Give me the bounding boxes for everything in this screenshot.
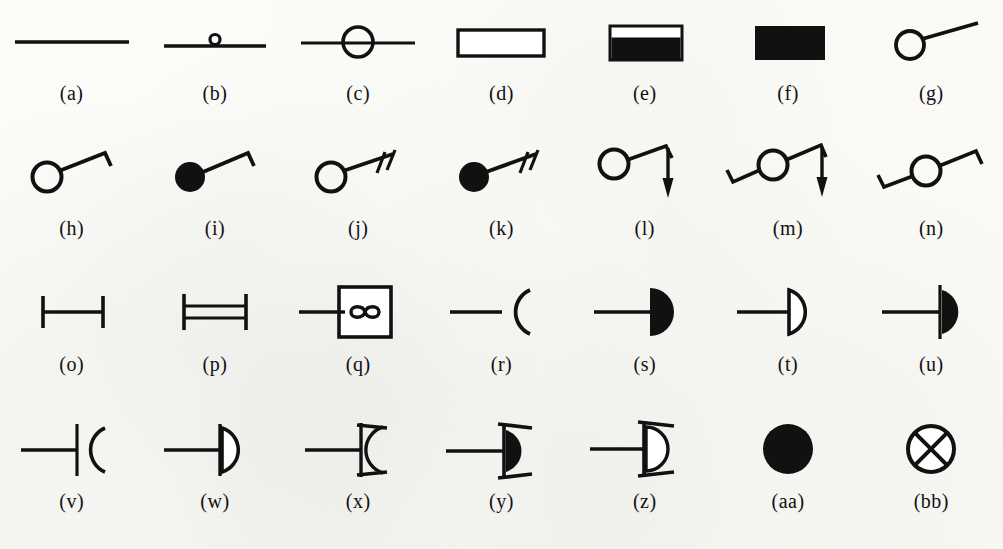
open-rectangle-icon [430,10,573,74]
symbol-cell-b: (b) [143,0,286,137]
symbol-caption: (e) [633,82,657,105]
symbol-caption: (b) [203,82,228,105]
circle-with-double-tick-tail-icon [287,139,430,205]
filled-circle-with-double-tick-tail-icon [430,139,573,205]
symbol-cell-y: (y) [430,412,573,549]
circle-two-hooked-tails-icon [860,139,1003,205]
symbol-caption: (k) [489,217,514,240]
symbol-caption: (f) [777,82,798,105]
symbol-caption: (q) [346,353,371,376]
symbol-cell-w: (w) [143,412,286,549]
bar-arc-with-wings-icon [287,416,430,482]
symbol-cell-u: (u) [860,275,1003,412]
symbol-caption: (v) [59,490,84,513]
symbol-cell-a: (a) [0,0,143,137]
symbol-caption: (m) [773,217,803,240]
solid-circle-icon [716,416,859,482]
symbol-cell-l: (l) [573,137,716,274]
symbol-cell-d: (d) [430,0,573,137]
symbol-cell-k: (k) [430,137,573,274]
symbol-caption: (p) [203,353,228,376]
symbol-cell-f: (f) [716,0,859,137]
symbol-caption: (h) [59,217,84,240]
bar-with-open-arc-icon [0,416,143,482]
symbol-caption: (i) [205,217,225,240]
symbol-cell-v: (v) [0,412,143,549]
symbol-caption: (r) [491,353,512,376]
line-through-circle-icon [287,10,430,74]
symbol-cell-i: (i) [143,137,286,274]
symbol-caption: (c) [346,82,370,105]
filled-circle-with-hooked-tail-icon [143,139,286,205]
figure-sheet: (a) (b) (c) [0,0,1003,549]
circle-tail-with-down-arrow-icon [573,139,716,205]
bar-outlined-half-disc-with-wings-icon [573,416,716,482]
symbol-caption: (s) [633,353,656,376]
line-with-open-arc-icon [430,281,573,343]
symbol-grid: (a) (b) (c) [0,0,1003,549]
symbol-cell-p: (p) [143,275,286,412]
circle-with-hooked-tail-icon [0,139,143,205]
symbol-cell-t: (t) [716,275,859,412]
symbol-caption: (d) [489,82,514,105]
bar-filled-half-disc-with-wings-icon [430,416,573,482]
line-with-small-circle-icon [143,10,286,74]
symbol-cell-bb: (bb) [860,412,1003,549]
single-bar-with-end-ticks-icon [0,281,143,343]
symbol-cell-r: (r) [430,275,573,412]
symbol-cell-n: (n) [860,137,1003,274]
symbol-cell-o: (o) [0,275,143,412]
symbol-cell-h: (h) [0,137,143,274]
symbol-caption: (z) [633,490,657,513]
symbol-cell-c: (c) [287,0,430,137]
line-with-filled-half-disc-icon [573,281,716,343]
solid-rectangle-icon [716,10,859,74]
double-bar-with-end-ticks-icon [143,281,286,343]
symbol-caption: (x) [346,490,371,513]
symbol-cell-s: (s) [573,275,716,412]
symbol-caption: (g) [919,82,944,105]
crossed-circle-icon [860,416,1003,482]
circle-two-tails-with-down-arrow-icon [716,139,859,205]
symbol-cell-j: (j) [287,137,430,274]
symbol-caption: (u) [919,353,944,376]
bar-with-outlined-half-disc-icon [143,416,286,482]
half-filled-rectangle-icon [573,10,716,74]
box-with-infinity-icon [287,281,430,343]
symbol-caption: (n) [919,217,944,240]
symbol-cell-g: (g) [860,0,1003,137]
symbol-caption: (j) [348,217,368,240]
symbol-cell-e: (e) [573,0,716,137]
symbol-caption: (o) [59,353,84,376]
symbol-cell-x: (x) [287,412,430,549]
symbol-caption: (w) [200,490,229,513]
symbol-cell-z: (z) [573,412,716,549]
symbol-cell-aa: (aa) [716,412,859,549]
symbol-cell-q: (q) [287,275,430,412]
symbol-caption: (y) [489,490,514,513]
plain-line-icon [0,10,143,74]
symbol-cell-m: (m) [716,137,859,274]
bar-with-filled-half-disc-icon [860,281,1003,343]
line-with-open-half-disc-icon [716,281,859,343]
circle-with-straight-tail-icon [860,10,1003,74]
symbol-caption: (l) [635,217,655,240]
symbol-caption: (t) [778,353,798,376]
symbol-caption: (bb) [914,490,949,513]
symbol-caption: (a) [60,82,84,105]
symbol-caption: (aa) [772,490,805,513]
